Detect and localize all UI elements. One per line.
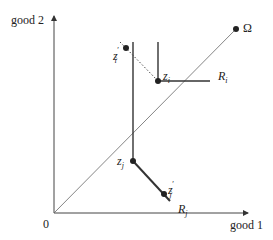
zj-point xyxy=(130,158,136,164)
zi-prime-point xyxy=(123,45,129,51)
zi-prime-label: z′i xyxy=(113,49,117,65)
omega-label: Ω xyxy=(243,22,252,34)
x-axis-label: good 1 xyxy=(230,219,263,231)
ri-label: Ri xyxy=(218,70,228,85)
omega-point xyxy=(233,26,239,32)
zj-prime-label: z′j xyxy=(168,183,172,199)
y-axis-label: good 2 xyxy=(11,14,44,26)
zj-prime-point xyxy=(161,191,167,197)
rj-label: Rj xyxy=(178,203,188,218)
zi-point xyxy=(155,78,161,84)
diagonal-line xyxy=(54,29,236,213)
origin-label: 0 xyxy=(43,218,49,230)
zj-label: zj xyxy=(117,155,124,170)
diagram-canvas xyxy=(0,0,273,240)
zi-label: zi xyxy=(163,70,170,85)
